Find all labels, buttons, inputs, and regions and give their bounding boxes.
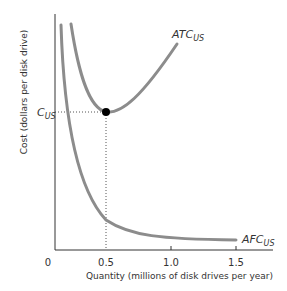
cost-curves-chart: Cost (dollars per disk drive) CUS ATCUS … xyxy=(0,0,287,291)
x-tick-label-0-5: 0.5 xyxy=(98,257,114,268)
atc-curve xyxy=(71,24,177,112)
c-us-label-sub: US xyxy=(45,112,56,121)
x-tick-label-1-0: 1.0 xyxy=(163,257,179,268)
x-axis-label: Quantity (millions of disk drives per ye… xyxy=(86,271,273,281)
atc-us-label-sub: US xyxy=(193,34,204,43)
atc-us-label-main: ATC xyxy=(171,28,193,41)
afc-us-label: AFCUS xyxy=(241,233,274,248)
c-us-label: CUS xyxy=(37,106,56,121)
y-axis-label: Cost (dollars per disk drive) xyxy=(19,30,29,154)
afc-us-label-sub: US xyxy=(264,239,275,248)
afc-us-label-main: AFC xyxy=(241,233,264,246)
x-tick-label-1-5: 1.5 xyxy=(228,257,244,268)
x-tick-label-0: 0 xyxy=(45,257,51,268)
afc-curve xyxy=(61,25,236,240)
atc-us-label: ATCUS xyxy=(171,28,204,43)
atc-minimum-point xyxy=(102,108,110,116)
